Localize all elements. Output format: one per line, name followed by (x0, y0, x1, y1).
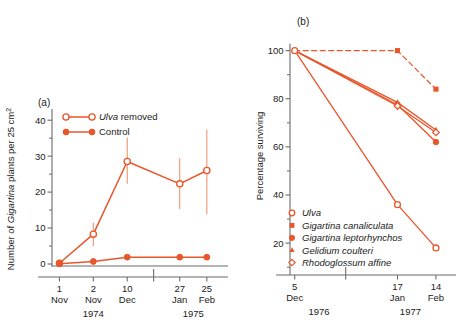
panel-a-year-right: 1975 (183, 308, 204, 319)
panel-a-legend-marker-ulva-removed (89, 114, 95, 120)
panel-b-ylabel-text: Percentage surviving (254, 112, 265, 201)
panel-a-label: (a) (38, 97, 50, 108)
panel-a-xtick-day: 2 (91, 283, 96, 294)
panel-b-label: (b) (297, 16, 309, 27)
panel-a-xtick-month: Nov (85, 294, 102, 305)
panel-b-legend-label-2: Gigartina leptorhynchos (302, 232, 403, 243)
panel-a-ytick-label: 0 (40, 258, 45, 269)
panel-a-point-control (57, 261, 63, 267)
panel-b-year-left: 1976 (308, 306, 329, 317)
panel-a-ylabel-text: Number of Gigartina plants per 25 cm2 (5, 108, 17, 270)
panel-a-ytick-label: 10 (35, 222, 46, 233)
panel-a-year-left: 1974 (83, 308, 104, 319)
panel-b-legend-marker-0 (289, 210, 295, 216)
panel-a-legend-marker-control (63, 129, 69, 135)
panel-b-ytick-label: 20 (273, 238, 284, 249)
panel-a-legend-marker-control (89, 129, 95, 135)
panel-b-legend-label-0: Ulva (302, 207, 321, 218)
panel-a-point-control (204, 254, 210, 260)
panel-a-ytick-label: 40 (35, 115, 46, 126)
panel-b-xtick-month: Dec (286, 292, 303, 303)
panel-b-point-0 (433, 245, 439, 251)
panel-a-legend-label-ulva-removed: Ulva removed (99, 111, 158, 122)
panel-a-xtick-month: Nov (51, 294, 68, 305)
panel-b-point-0 (395, 202, 401, 208)
panel-b-xtick-month: Feb (428, 292, 444, 303)
panel-a-series-line-ulva-removed (59, 162, 206, 264)
panel-a-point-control (177, 254, 183, 260)
panel-b-point-1 (433, 87, 438, 92)
panel-b-point-2 (433, 139, 439, 145)
figure-svg: 0102030401Nov2Nov10Dec27Jan25Feb19741975… (0, 0, 465, 323)
panel-b-legend-marker-2 (289, 235, 294, 240)
panel-b-ytick-label: 100 (268, 45, 284, 56)
panel-b-xtick-day: 5 (292, 281, 297, 292)
panel-a-xtick-day: 27 (174, 283, 185, 294)
panel-b-ytick-label: 40 (273, 189, 284, 200)
panel-b-legend-label-1: Gigartina canaliculata (302, 220, 393, 231)
panel-b-legend-label-3: Gelidium coulteri (302, 245, 374, 256)
panel-a-ytick-label: 20 (35, 186, 46, 197)
panel-b-legend-label-4: Rhodoglossum affine (302, 257, 391, 268)
panel-a-ytick-label: 30 (35, 151, 46, 162)
panel-b-xtick-day: 14 (431, 281, 442, 292)
panel-b-series-line-2 (295, 51, 436, 142)
panel-b-year-right: 1977 (400, 306, 421, 317)
panel-b-series-line-4 (295, 51, 436, 133)
panel-a-point-control (90, 259, 96, 265)
panel-a-legend-label-control: Control (99, 126, 130, 137)
panel-a-point-ulva-removed (90, 231, 96, 237)
panel-a-series-line-control (59, 257, 206, 263)
panel-a-point-ulva-removed (204, 167, 210, 173)
panel-b-xtick-month: Jan (390, 292, 405, 303)
panel-a-xtick-month: Jan (172, 294, 187, 305)
panel-b-ytick-label: 60 (273, 141, 284, 152)
panel-a-point-ulva-removed (177, 181, 183, 187)
panel-b-ytick-label: 80 (273, 93, 284, 104)
panel-b-xtick-day: 17 (392, 281, 403, 292)
panel-a-xtick-month: Feb (199, 294, 215, 305)
panel-a-xtick-day: 25 (202, 283, 213, 294)
panel-a-xtick-day: 1 (57, 283, 62, 294)
figure-container: 0102030401Nov2Nov10Dec27Jan25Feb19741975… (0, 0, 465, 323)
panel-b-point-1 (395, 48, 400, 53)
panel-a-xtick-month: Dec (119, 294, 136, 305)
panel-a-ylabel: Number of Gigartina plants per 25 cm2 (5, 108, 17, 270)
panel-b-ylabel: Percentage surviving (254, 112, 265, 201)
panel-b-legend-marker-1 (290, 223, 295, 228)
panel-a-point-ulva-removed (124, 158, 130, 164)
panel-a-point-control (124, 254, 130, 260)
panel-b-point-0 (292, 48, 298, 54)
panel-a-xtick-day: 10 (122, 283, 133, 294)
panel-a-legend-marker-ulva-removed (63, 114, 69, 120)
